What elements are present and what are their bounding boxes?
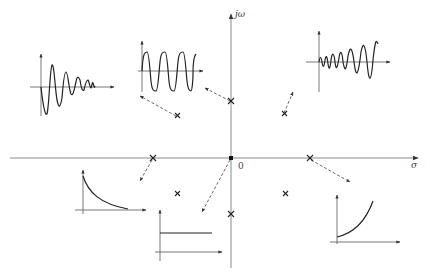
inset-growing-oscillation — [306, 31, 390, 92]
inset-decaying-oscillation — [30, 54, 114, 116]
s-plane-diagram — [0, 0, 430, 277]
origin-label: 0 — [238, 161, 244, 171]
arrow-lhp-upper — [140, 96, 176, 116]
inset-sustained-oscillation — [138, 41, 203, 92]
pole-origin-marker — [229, 156, 233, 160]
arrow-real-positive — [311, 160, 350, 182]
pointer-arrows — [140, 88, 350, 212]
arrow-rhp-upper — [284, 92, 293, 113]
inset-growing-exponential — [330, 195, 400, 244]
pole-rhp-lower-icon — [283, 191, 288, 196]
arrow-origin — [202, 160, 230, 212]
inset-constant — [155, 210, 222, 261]
pole-lhp-lower-icon — [175, 191, 180, 196]
inset-decaying-exponential — [75, 170, 146, 214]
arrow-imag-upper — [205, 88, 230, 101]
jomega-axis-label: jω — [235, 9, 245, 19]
sigma-axis-label: σ — [411, 160, 417, 170]
arrow-real-negative — [140, 160, 152, 181]
main-axes — [10, 14, 418, 268]
